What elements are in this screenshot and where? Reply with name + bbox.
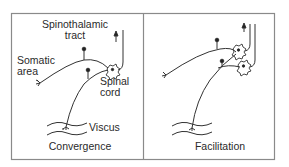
viscus-label: Viscus — [89, 122, 120, 133]
visceral-fiber — [192, 54, 236, 128]
spinothalamic-tract — [118, 30, 123, 70]
tract-2 — [250, 24, 255, 67]
visceral-ganglion-icon — [86, 68, 90, 72]
visceral-ganglion-icon — [220, 59, 224, 63]
spinal-cord-label: Spinal cord — [100, 76, 129, 98]
tract-label: Spinothalamic tract — [38, 19, 112, 41]
spinal-neuron-1-icon — [232, 44, 246, 60]
viscus-wave-bottom — [172, 131, 212, 135]
visceral-ending-icon — [189, 128, 195, 131]
facilitation-panel — [162, 23, 255, 135]
spinal-neuron-2-icon — [237, 60, 251, 76]
tract-label-line2: tract — [38, 30, 112, 41]
viscus-wave-bottom — [47, 131, 87, 135]
somatic-ganglion-icon — [215, 38, 219, 42]
visceral-ending-icon — [62, 127, 69, 130]
cord-label-line2: cord — [100, 87, 129, 98]
somatic-ending-icon — [36, 80, 40, 86]
convergence-caption: Convergence — [40, 141, 120, 152]
facilitation-caption: Facilitation — [180, 141, 260, 152]
ascending-arrow-icon — [114, 31, 118, 36]
somatic-area-label: Somatic area — [17, 55, 55, 77]
somatic-label-line2: area — [17, 66, 55, 77]
ascending-arrow-icon — [242, 23, 246, 28]
somatic-ganglion-icon — [82, 47, 86, 51]
somatic-ending-icon — [162, 72, 166, 78]
somatic-fiber — [166, 48, 236, 75]
